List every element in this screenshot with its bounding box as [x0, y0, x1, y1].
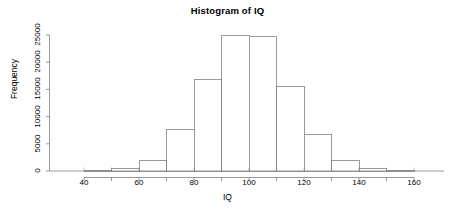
histogram-bar	[139, 160, 167, 171]
x-axis-tick-label: 160	[399, 178, 429, 187]
x-axis-tick-label: 140	[344, 178, 374, 187]
bars-group	[84, 35, 414, 171]
x-axis-title: IQ	[0, 192, 455, 202]
histogram-plot: Histogram of IQ 050001000015000200002500…	[0, 0, 455, 210]
x-axis-tick-label: 40	[69, 178, 99, 187]
y-axis-tick-label: 25000	[32, 18, 41, 52]
histogram-bar	[304, 134, 332, 171]
histogram-bar	[222, 35, 250, 171]
histogram-bar	[277, 87, 305, 171]
histogram-bar	[332, 161, 360, 171]
y-axis-title: Frequency	[9, 49, 19, 109]
x-axis-tick-label: 120	[289, 178, 319, 187]
x-axis-tick-label: 60	[124, 178, 154, 187]
histogram-bar	[167, 130, 195, 171]
histogram-bar	[249, 36, 277, 171]
x-axis-tick-label: 100	[234, 178, 264, 187]
histogram-bar	[194, 79, 222, 171]
x-axis-tick-label: 80	[179, 178, 209, 187]
